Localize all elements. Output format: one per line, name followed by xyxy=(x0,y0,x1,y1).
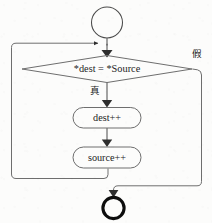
start-terminator-circle xyxy=(92,7,123,38)
edge-label-false: 假 xyxy=(192,48,202,59)
edge-false-to-end xyxy=(114,69,202,192)
node-decision[interactable]: *dest = *Source xyxy=(22,56,192,83)
node-end[interactable] xyxy=(103,197,124,218)
flowchart-svg: *dest = *Source 真 假 dest++ source++ xyxy=(0,0,212,223)
process-source-label: source++ xyxy=(88,152,126,163)
arrowhead-into-source xyxy=(102,140,112,148)
end-terminator-circle xyxy=(103,197,124,218)
decision-label: *dest = *Source xyxy=(74,63,141,74)
flowchart-canvas: *dest = *Source 真 假 dest++ source++ xyxy=(0,0,212,223)
process-dest-label: dest++ xyxy=(93,112,121,123)
arrowhead-into-dest xyxy=(102,100,112,108)
node-start[interactable] xyxy=(92,7,123,38)
node-process-source[interactable]: source++ xyxy=(73,147,141,168)
edge-label-true: 真 xyxy=(90,85,100,96)
node-process-dest[interactable]: dest++ xyxy=(73,108,141,129)
